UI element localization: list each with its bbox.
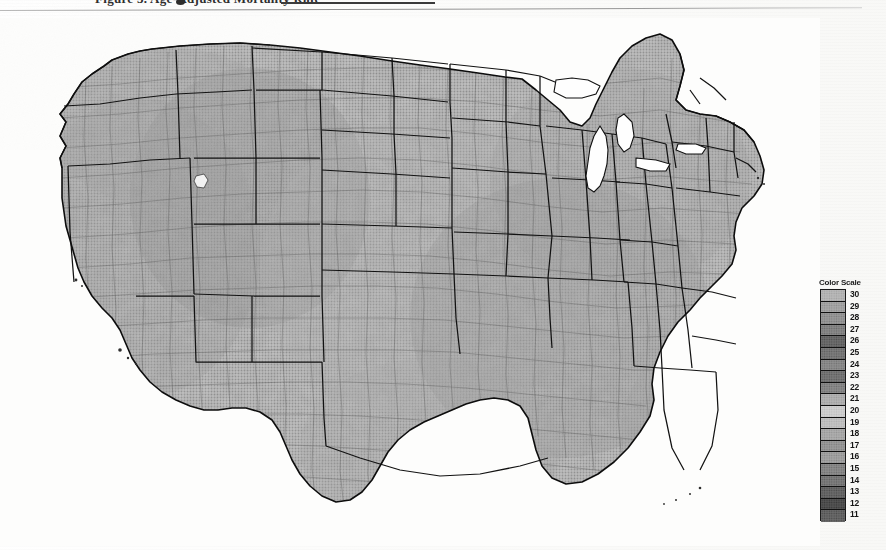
legend-swatch — [821, 429, 845, 441]
legend-label: 28 — [849, 312, 879, 324]
legend-label: 23 — [849, 370, 879, 382]
legend-color-scale: Color Scale 3029282726252423222120191817… — [818, 278, 882, 521]
legend-label: 30 — [849, 289, 879, 301]
legend-swatch — [821, 383, 845, 395]
legend-label: 19 — [849, 417, 879, 429]
legend-label: 11 — [849, 509, 879, 521]
legend-swatch — [821, 371, 845, 383]
legend-swatch — [821, 302, 845, 314]
legend-label: 18 — [849, 428, 879, 440]
legend-swatch — [821, 336, 845, 348]
legend-swatch — [821, 348, 845, 360]
us-county-choropleth-map — [0, 18, 820, 546]
legend-label-column: 3029282726252423222120191817161514131211 — [849, 289, 879, 521]
legend-label: 26 — [849, 335, 879, 347]
legend-swatch — [821, 418, 845, 430]
legend-swatch — [821, 290, 845, 302]
legend-label: 20 — [849, 405, 879, 417]
legend-swatch — [821, 499, 845, 511]
legend-swatch — [821, 476, 845, 488]
legend-swatch — [821, 406, 845, 418]
legend-label: 25 — [849, 347, 879, 359]
legend-swatch — [821, 452, 845, 464]
legend-label: 15 — [849, 463, 879, 475]
legend-label: 12 — [849, 498, 879, 510]
legend-label: 27 — [849, 324, 879, 336]
legend-label: 16 — [849, 451, 879, 463]
legend-swatch — [821, 487, 845, 499]
legend-swatch — [821, 464, 845, 476]
legend-label: 21 — [849, 393, 879, 405]
legend-swatch — [821, 510, 845, 522]
legend-swatch — [821, 325, 845, 337]
legend-swatch — [821, 394, 845, 406]
legend-label: 29 — [849, 301, 879, 313]
title-underline — [281, 2, 435, 4]
legend-swatch — [821, 313, 845, 325]
legend-title: Color Scale — [819, 278, 882, 287]
legend-swatch — [821, 360, 845, 372]
legend-label: 13 — [849, 486, 879, 498]
legend-label: 14 — [849, 475, 879, 487]
legend-label: 17 — [849, 440, 879, 452]
legend-label: 24 — [849, 359, 879, 371]
legend-label: 22 — [849, 382, 879, 394]
legend-swatch-column — [820, 289, 846, 521]
legend-swatch — [821, 441, 845, 453]
